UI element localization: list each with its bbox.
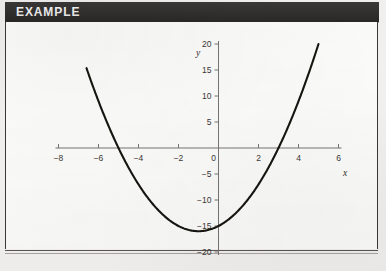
figure-panel bbox=[5, 22, 378, 249]
bottom-divider bbox=[5, 250, 378, 251]
example-header-bar: EXAMPLE bbox=[5, 2, 379, 22]
page-title: EXAMPLE bbox=[16, 5, 80, 19]
panel-sheen bbox=[6, 22, 377, 249]
bottom-divider-secondary bbox=[5, 253, 378, 254]
scanned-page: EXAMPLE −8−6−4−20246−20−15−10−55101520 x… bbox=[0, 0, 386, 271]
